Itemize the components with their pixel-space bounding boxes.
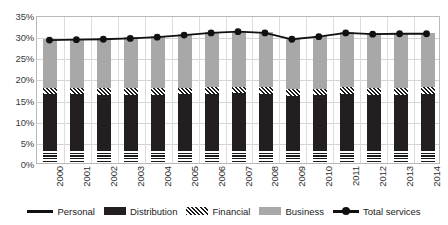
stacked-bar	[205, 32, 219, 163]
bar-segment-distribution	[97, 95, 111, 151]
bar-segment-distribution	[151, 95, 165, 151]
gridline	[279, 17, 280, 163]
legend-swatch-gray	[259, 207, 281, 215]
y-axis-tick-label: 10%	[2, 116, 34, 127]
bar-segment-distribution	[394, 95, 408, 151]
bar-segment-distribution	[205, 94, 219, 151]
legend-item-label: Distribution	[130, 206, 178, 217]
bar-segment-business	[151, 36, 165, 88]
bar-segment-personal	[43, 150, 57, 163]
bar-segment-financial	[367, 88, 381, 95]
bar-segment-business	[394, 33, 408, 88]
bar-segment-personal	[340, 150, 354, 163]
legend-item-total-services[interactable]: Total services	[333, 206, 421, 217]
bar-segment-financial	[394, 88, 408, 95]
gridline	[414, 17, 415, 163]
plot-area	[36, 16, 440, 164]
legend-swatch-line	[27, 210, 53, 213]
y-axis-tick-label: 5%	[2, 137, 34, 148]
x-axis-tick-label: 2010	[323, 166, 334, 187]
y-axis-tick-label: 25%	[2, 53, 34, 64]
x-axis-tick-label: 2000	[54, 166, 65, 187]
stacked-bar	[313, 36, 327, 163]
legend-item-distribution[interactable]: Distribution	[104, 206, 178, 217]
chart-container: 0%5%10%15%20%25%30%35% 20002001200220032…	[0, 0, 448, 225]
bar-segment-business	[286, 38, 300, 89]
bar-segment-business	[367, 33, 381, 88]
y-axis-tick-label: 15%	[2, 95, 34, 106]
gridline	[333, 17, 334, 163]
bar-segment-distribution	[259, 94, 273, 150]
y-axis-tick-label: 0%	[2, 159, 34, 170]
stacked-bar	[232, 31, 246, 163]
x-axis-tick-label: 2013	[404, 166, 415, 187]
bar-segment-personal	[151, 150, 165, 163]
stacked-bar	[43, 39, 57, 163]
legend-item-financial[interactable]: Financial	[186, 206, 250, 217]
gridline	[387, 17, 388, 163]
bar-segment-distribution	[124, 95, 138, 151]
stacked-bar	[394, 33, 408, 163]
bar-segment-business	[259, 32, 273, 87]
gridline	[172, 17, 173, 163]
bar-segment-business	[43, 39, 57, 88]
bar-segment-personal	[70, 150, 84, 163]
stacked-bar	[259, 32, 273, 163]
bar-segment-personal	[205, 150, 219, 163]
legend-item-label: Personal	[57, 206, 95, 217]
y-axis-tick-label: 35%	[2, 11, 34, 22]
stacked-bar	[178, 34, 192, 163]
bar-segment-business	[97, 38, 111, 88]
bar-segment-distribution	[421, 94, 435, 150]
legend-item-label: Business	[285, 206, 324, 217]
bar-segment-distribution	[367, 95, 381, 151]
legend-swatch-line-marker	[333, 207, 359, 215]
x-axis-tick-label: 2011	[350, 166, 361, 186]
stacked-bar	[367, 33, 381, 163]
bar-segment-financial	[421, 87, 435, 94]
x-axis-tick-label: 2009	[296, 166, 307, 187]
stacked-bar	[286, 38, 300, 163]
stacked-bar	[151, 36, 165, 163]
gridline	[199, 17, 200, 163]
gridline	[306, 17, 307, 163]
gridline	[226, 17, 227, 163]
x-axis-tick-label: 2003	[135, 166, 146, 187]
stacked-bar	[97, 38, 111, 163]
x-axis-tick-label: 2014	[431, 166, 442, 187]
bar-segment-distribution	[313, 95, 327, 150]
bar-segment-business	[124, 37, 138, 88]
bar-segment-personal	[286, 150, 300, 163]
gridline	[64, 17, 65, 163]
stacked-bar	[70, 39, 84, 163]
bar-segment-business	[313, 36, 327, 89]
bar-segment-personal	[421, 150, 435, 163]
bar-segment-business	[232, 31, 246, 87]
bar-segment-distribution	[232, 93, 246, 150]
gridline	[252, 17, 253, 163]
legend-item-label: Total services	[363, 206, 421, 217]
bar-segment-business	[178, 34, 192, 88]
bar-segment-personal	[367, 150, 381, 163]
stacked-bar	[124, 37, 138, 163]
x-axis-tick-label: 2005	[189, 166, 200, 187]
bar-segment-personal	[259, 150, 273, 163]
x-axis-tick-label: 2007	[243, 166, 254, 187]
bar-segment-financial	[259, 87, 273, 94]
bar-segment-personal	[97, 150, 111, 163]
x-axis: 2000200120022003200420052006200720082009…	[36, 166, 440, 200]
stacked-bar	[421, 33, 435, 163]
bar-segment-personal	[178, 150, 192, 163]
bar-segment-personal	[124, 150, 138, 163]
y-axis-tick-label: 30%	[2, 32, 34, 43]
bar-segment-personal	[394, 150, 408, 163]
y-axis-tick-label: 20%	[2, 74, 34, 85]
legend-item-personal[interactable]: Personal	[27, 206, 95, 217]
gridline	[145, 17, 146, 163]
bar-segment-business	[70, 39, 84, 88]
bar-segment-financial	[340, 87, 354, 94]
bar-segment-distribution	[70, 94, 84, 150]
bar-segment-distribution	[43, 94, 57, 150]
x-axis-tick-label: 2008	[269, 166, 280, 187]
legend-item-business[interactable]: Business	[259, 206, 324, 217]
